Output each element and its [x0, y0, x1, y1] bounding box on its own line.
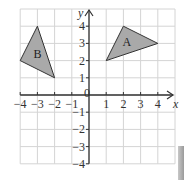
x-tick-label: −3 [31, 97, 44, 111]
grid-lines [20, 9, 175, 164]
x-tick-label: −2 [48, 97, 61, 111]
y-tick-label: −2 [72, 122, 85, 136]
x-axis-label: x [172, 97, 179, 111]
y-tick-label: −4 [72, 157, 85, 171]
x-tick-label: 1 [103, 97, 109, 111]
axes [20, 10, 173, 164]
y-tick-label: 3 [79, 36, 85, 50]
x-tick-label: 2 [120, 97, 126, 111]
x-tick-label: −4 [14, 97, 27, 111]
y-tick-label: −3 [72, 140, 85, 154]
page-edge-shadow [178, 146, 184, 180]
y-tick-label: 2 [79, 54, 85, 68]
triangle-label-b: B [33, 47, 41, 61]
y-axis-label: y [77, 6, 84, 20]
x-tick-label: 3 [138, 97, 144, 111]
x-tick-label: 4 [155, 97, 161, 111]
y-tick-label: 1 [79, 71, 85, 85]
x-tick-label: 0 [84, 86, 90, 100]
y-tick-label: 4 [79, 19, 85, 33]
y-tick-label: −1 [72, 105, 85, 119]
coordinate-plane: AB −4−3−2−101234−4−3−2−11234xy [0, 0, 184, 180]
triangle-label-a: A [123, 35, 132, 49]
